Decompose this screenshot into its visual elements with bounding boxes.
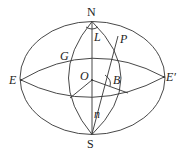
equator-upper-arc xyxy=(21,58,164,80)
label-N: N xyxy=(87,6,96,18)
label-n: n xyxy=(94,108,100,120)
outer-sphere xyxy=(20,22,165,135)
label-G: G xyxy=(60,50,69,62)
diagram-lines xyxy=(0,0,184,154)
label-S: S xyxy=(87,138,94,150)
label-B: B xyxy=(113,74,120,86)
label-E: E xyxy=(9,74,16,86)
label-O: O xyxy=(80,70,89,82)
celestial-sphere-diagram: N S E E′ O G P L B n xyxy=(0,0,184,154)
label-P: P xyxy=(120,33,127,45)
label-L: L xyxy=(94,31,101,43)
label-E-prime: E′ xyxy=(166,71,176,83)
